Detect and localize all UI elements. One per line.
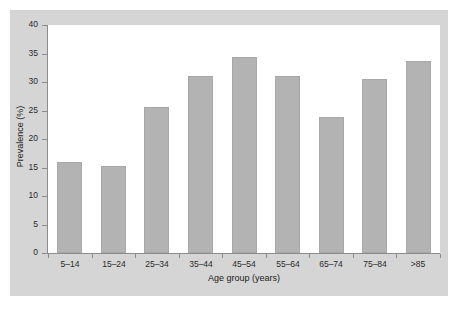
x-axis-tick: [396, 254, 397, 258]
y-axis-tick: [42, 54, 47, 55]
x-axis-tick: [266, 254, 267, 258]
bar: [144, 107, 169, 253]
x-axis-tick: [92, 254, 93, 258]
x-axis-tick-label: >85: [396, 260, 440, 269]
x-axis-tick: [353, 254, 354, 258]
x-axis-tick: [440, 254, 441, 258]
y-axis-tick-label-wrap: 5: [14, 220, 38, 230]
x-axis-tick: [309, 254, 310, 258]
y-axis-tick: [42, 139, 47, 140]
y-axis-tick-label-wrap: 40: [14, 20, 38, 30]
bar: [406, 61, 431, 253]
bar: [232, 57, 257, 253]
y-axis-tick: [42, 253, 47, 254]
y-axis-tick: [42, 168, 47, 169]
x-axis-tick-label: 35–44: [179, 260, 223, 269]
bar: [319, 117, 344, 253]
y-axis-tick-label: 0: [16, 248, 38, 257]
y-axis-tick-label-wrap: 30: [14, 77, 38, 87]
x-axis-line: [47, 253, 440, 254]
y-axis-line: [47, 25, 48, 254]
y-axis-tick-label-wrap: 0: [14, 248, 38, 258]
x-axis-tick: [48, 254, 49, 258]
y-axis-tick: [42, 196, 47, 197]
x-axis-tick-label: 55–64: [266, 260, 310, 269]
x-axis-tick-label: 25–34: [135, 260, 179, 269]
y-axis-tick-label: 30: [16, 77, 38, 86]
x-axis-tick-label: 75–84: [353, 260, 397, 269]
y-axis-tick: [42, 225, 47, 226]
y-axis-tick-label: 40: [16, 20, 38, 29]
bar: [362, 79, 387, 253]
x-axis-tick: [222, 254, 223, 258]
x-axis-tick-label: 45–54: [222, 260, 266, 269]
bar: [188, 76, 213, 253]
y-axis-tick: [42, 25, 47, 26]
y-axis-title: Prevalence (%): [16, 87, 25, 187]
y-axis-tick-label: 35: [16, 49, 38, 58]
x-axis-tick: [179, 254, 180, 258]
y-axis-tick-label-wrap: 10: [14, 191, 38, 201]
bar: [275, 76, 300, 253]
bar: [101, 166, 126, 253]
x-axis-tick-label: 5–14: [48, 260, 92, 269]
y-axis-tick-label: 5: [16, 220, 38, 229]
bar: [57, 162, 82, 253]
x-axis-title: Age group (years): [48, 274, 440, 283]
x-axis-tick: [135, 254, 136, 258]
y-axis-tick: [42, 111, 47, 112]
y-axis-tick-label-wrap: 35: [14, 49, 38, 59]
y-axis-tick-label: 10: [16, 191, 38, 200]
y-axis-tick: [42, 82, 47, 83]
x-axis-tick-label: 15–24: [92, 260, 136, 269]
x-axis-tick-label: 65–74: [309, 260, 353, 269]
chart-figure: 0510152025303540 5–1415–2425–3435–4445–5…: [0, 0, 460, 313]
